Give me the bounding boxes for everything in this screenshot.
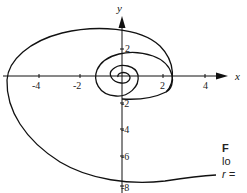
y-axis-label: y: [116, 2, 122, 14]
y-tick-label: 2: [125, 43, 130, 54]
y-axis-arrow-icon: [119, 16, 126, 28]
x-tick-label: -4: [32, 80, 40, 91]
y-tick-label: -4: [121, 124, 129, 135]
spiral-curve-outer: [7, 29, 216, 183]
y-tick-label: -6: [121, 151, 129, 162]
x-axis-label: x: [234, 70, 240, 82]
y-tick-label: -8: [121, 182, 129, 193]
x-tick-label: 2: [160, 80, 165, 91]
x-axis-arrow-icon: [216, 73, 228, 80]
x-tick-label: 4: [203, 80, 208, 91]
caption-line-3: r =: [222, 168, 235, 181]
spiral-chart: x y -4 -2 2 4 2 -2 -4 -6 -8: [0, 0, 247, 193]
y-tick-label: -2: [121, 98, 129, 109]
caption-line-1: F: [222, 142, 229, 155]
caption-line-2: lo: [222, 155, 231, 168]
x-tick-label: -2: [73, 80, 81, 91]
